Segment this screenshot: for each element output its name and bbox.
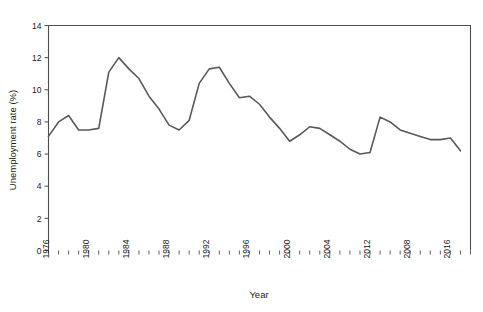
x-tick-label: 2004 [322, 239, 332, 258]
y-tick-label: 14 [32, 21, 42, 31]
y-tick-label: 8 [37, 117, 42, 127]
unemployment-rate-line-chart: 02468101214 1976198019841988199219962000… [0, 0, 483, 312]
x-tick-label: 2000 [282, 239, 292, 258]
x-tick-label: 1980 [81, 239, 91, 258]
x-tick-label: 2012 [362, 239, 372, 258]
y-tick-label: 10 [32, 85, 42, 95]
chart-background [0, 0, 483, 312]
x-axis-title: Year [249, 289, 268, 300]
x-tick-label: 1984 [121, 239, 131, 258]
x-tick-label: 1992 [201, 239, 211, 258]
x-tick-label: 1988 [161, 239, 171, 258]
x-tick-label: 2008 [402, 239, 412, 258]
x-tick-label: 1976 [41, 239, 51, 258]
y-tick-label: 2 [37, 214, 42, 224]
y-tick-label: 4 [37, 181, 42, 191]
y-axis-title: Unemployment rate (%) [7, 90, 18, 190]
x-tick-label: 1996 [241, 239, 251, 258]
chart-canvas: 02468101214 1976198019841988199219962000… [0, 0, 483, 312]
y-tick-label: 12 [32, 53, 42, 63]
x-tick-label: 2016 [442, 239, 452, 258]
y-tick-label: 6 [37, 149, 42, 159]
